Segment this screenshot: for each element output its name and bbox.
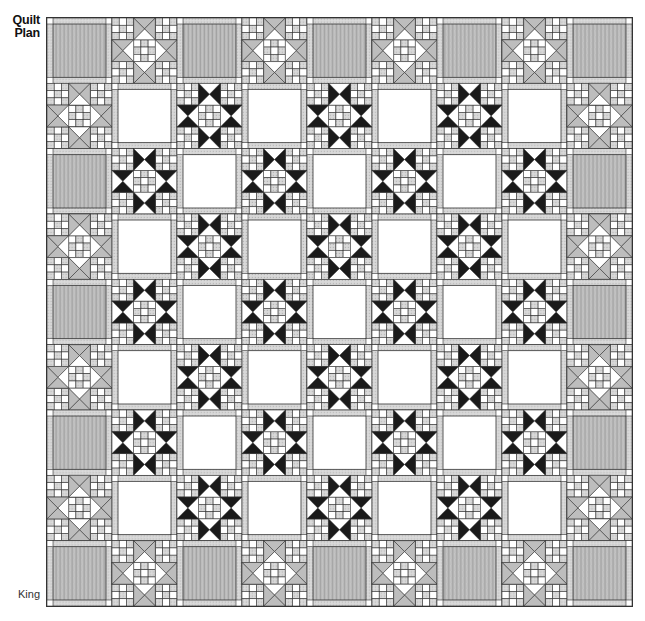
white-block bbox=[242, 214, 307, 279]
border-star-block bbox=[242, 18, 307, 83]
white-block bbox=[437, 279, 502, 344]
white-block bbox=[372, 83, 437, 148]
white-block bbox=[307, 410, 372, 475]
ohio-star-block bbox=[502, 410, 567, 475]
gray-fabric-block bbox=[567, 18, 632, 83]
ohio-star-block bbox=[307, 345, 372, 410]
gray-fabric-block bbox=[47, 18, 112, 83]
quilt-diagram bbox=[46, 17, 633, 607]
ohio-star-block bbox=[242, 410, 307, 475]
ohio-star-block bbox=[372, 410, 437, 475]
ohio-star-block bbox=[372, 279, 437, 344]
white-block bbox=[372, 345, 437, 410]
gray-fabric-block bbox=[47, 149, 112, 214]
ohio-star-block bbox=[307, 214, 372, 279]
white-block bbox=[112, 83, 177, 148]
white-block bbox=[177, 149, 242, 214]
white-block bbox=[177, 410, 242, 475]
ohio-star-block bbox=[372, 149, 437, 214]
ohio-star-block bbox=[177, 475, 242, 540]
gray-fabric-block bbox=[567, 279, 632, 344]
white-block bbox=[177, 279, 242, 344]
border-star-block bbox=[502, 541, 567, 606]
border-star-block bbox=[47, 345, 112, 410]
gray-fabric-block bbox=[47, 410, 112, 475]
white-block bbox=[112, 345, 177, 410]
title-line-2: Plan bbox=[0, 27, 40, 40]
ohio-star-block bbox=[502, 279, 567, 344]
gray-fabric-block bbox=[47, 541, 112, 606]
quilt-grid bbox=[47, 18, 632, 606]
ohio-star-block bbox=[307, 475, 372, 540]
ohio-star-block bbox=[242, 149, 307, 214]
ohio-star-block bbox=[437, 83, 502, 148]
white-block bbox=[242, 83, 307, 148]
gray-fabric-block bbox=[437, 541, 502, 606]
gray-fabric-block bbox=[567, 410, 632, 475]
border-star-block bbox=[372, 541, 437, 606]
white-block bbox=[112, 214, 177, 279]
size-label: King bbox=[18, 588, 40, 600]
border-star-block bbox=[567, 83, 632, 148]
border-star-block bbox=[47, 214, 112, 279]
gray-fabric-block bbox=[307, 18, 372, 83]
ohio-star-block bbox=[242, 279, 307, 344]
gray-fabric-block bbox=[567, 149, 632, 214]
white-block bbox=[372, 475, 437, 540]
border-star-block bbox=[502, 18, 567, 83]
border-star-block bbox=[112, 541, 177, 606]
white-block bbox=[242, 345, 307, 410]
white-block bbox=[502, 214, 567, 279]
gray-fabric-block bbox=[47, 279, 112, 344]
gray-fabric-block bbox=[177, 18, 242, 83]
white-block bbox=[242, 475, 307, 540]
white-block bbox=[502, 475, 567, 540]
white-block bbox=[307, 149, 372, 214]
white-block bbox=[437, 149, 502, 214]
white-block bbox=[502, 345, 567, 410]
ohio-star-block bbox=[112, 410, 177, 475]
quilt-plan-title: Quilt Plan bbox=[0, 14, 40, 40]
border-star-block bbox=[47, 475, 112, 540]
ohio-star-block bbox=[112, 149, 177, 214]
ohio-star-block bbox=[177, 345, 242, 410]
ohio-star-block bbox=[177, 83, 242, 148]
white-block bbox=[437, 410, 502, 475]
ohio-star-block bbox=[437, 345, 502, 410]
white-block bbox=[307, 279, 372, 344]
border-star-block bbox=[567, 214, 632, 279]
ohio-star-block bbox=[112, 279, 177, 344]
ohio-star-block bbox=[177, 214, 242, 279]
border-star-block bbox=[567, 475, 632, 540]
border-star-block bbox=[47, 83, 112, 148]
border-star-block bbox=[242, 541, 307, 606]
gray-fabric-block bbox=[567, 541, 632, 606]
ohio-star-block bbox=[307, 83, 372, 148]
ohio-star-block bbox=[437, 475, 502, 540]
gray-fabric-block bbox=[177, 541, 242, 606]
white-block bbox=[502, 83, 567, 148]
border-star-block bbox=[567, 345, 632, 410]
border-star-block bbox=[372, 18, 437, 83]
gray-fabric-block bbox=[307, 541, 372, 606]
white-block bbox=[372, 214, 437, 279]
white-block bbox=[112, 475, 177, 540]
gray-fabric-block bbox=[437, 18, 502, 83]
border-star-block bbox=[112, 18, 177, 83]
ohio-star-block bbox=[437, 214, 502, 279]
ohio-star-block bbox=[502, 149, 567, 214]
